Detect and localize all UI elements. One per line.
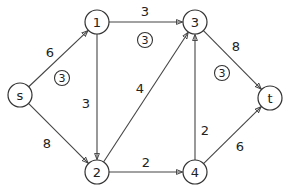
capacity-label-3-t: 8 xyxy=(232,39,240,54)
edge-arrow xyxy=(28,103,88,163)
capacity-label-4-t: 6 xyxy=(236,139,244,154)
capacity-label-4-3: 2 xyxy=(201,123,209,138)
node-4: 4 xyxy=(183,160,207,184)
node-2: 2 xyxy=(85,160,109,184)
capacity-label-1-2: 3 xyxy=(82,96,90,111)
node-s: s xyxy=(8,83,32,107)
node-label: s xyxy=(17,88,24,103)
circled-annotation: 3 xyxy=(55,71,70,86)
edge-4-t xyxy=(204,107,262,164)
capacity-label-s-1: 6 xyxy=(46,45,54,60)
capacity-label-s-2: 8 xyxy=(43,136,51,151)
node-3: 3 xyxy=(183,10,207,34)
capacity-label-2-3: 4 xyxy=(136,81,144,96)
node-label: t xyxy=(267,91,272,106)
edge-2-3 xyxy=(104,32,189,161)
node-1: 1 xyxy=(85,10,109,34)
node-label: 1 xyxy=(93,15,101,30)
node-t: t xyxy=(258,86,282,110)
edge-s-2 xyxy=(28,103,88,163)
capacity-label-2-4: 2 xyxy=(142,155,150,170)
flow-network-diagram: 683342286 333 s13t24 xyxy=(0,0,290,191)
circled-annotation: 3 xyxy=(215,66,230,81)
annotation-label: 3 xyxy=(142,34,149,47)
capacity-label-1-3: 3 xyxy=(141,4,149,19)
annotation-label: 3 xyxy=(219,67,226,80)
node-label: 3 xyxy=(191,15,199,30)
edge-arrow xyxy=(104,32,189,161)
annotation-label: 3 xyxy=(59,72,66,85)
node-label: 2 xyxy=(93,165,101,180)
circled-annotation: 3 xyxy=(138,33,153,48)
edge-arrow xyxy=(204,107,262,164)
node-label: 4 xyxy=(191,165,199,180)
